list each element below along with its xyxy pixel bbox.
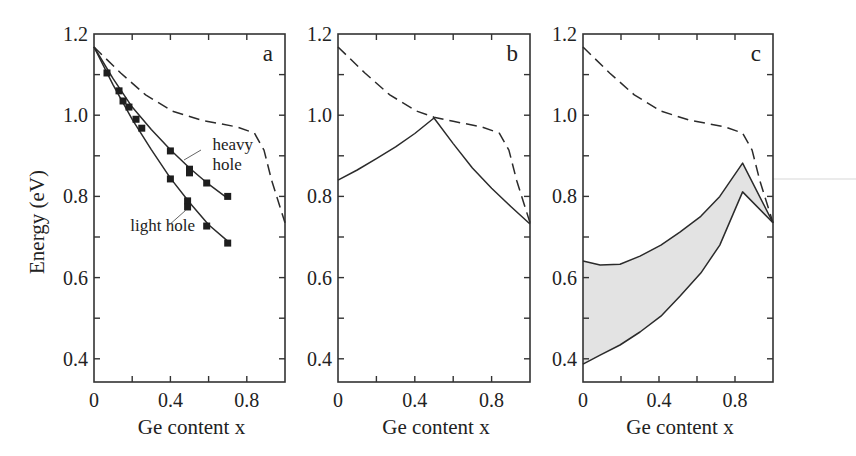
data-point-marker [120,97,127,104]
y-tick-label: 0.4 [63,348,88,370]
y-tick-label: 1.2 [63,23,88,45]
data-point-marker [224,193,231,200]
y-tick-label: 0.4 [307,348,332,370]
plot-frame [338,34,530,382]
data-point-marker [184,203,191,210]
annotation-label: light hole [130,216,195,235]
panel-letter: a [263,41,273,66]
solid-curve [338,118,530,224]
y-tick-label: 0.6 [552,267,577,289]
data-point-marker [167,175,174,182]
panel-a: 00.40.80.40.60.81.01.2Ge content xaheavy… [63,23,285,439]
data-point-marker [103,69,110,76]
annotation-label: hole [212,155,241,174]
data-point-marker [203,223,210,230]
data-point-marker [133,116,140,123]
data-point-marker [167,147,174,154]
data-point-marker [138,125,145,132]
x-tick-label: 0 [578,389,588,411]
x-tick-label: 0.8 [479,389,504,411]
data-point-marker [224,240,231,247]
y-tick-label: 0.4 [552,348,577,370]
y-tick-label: 0.6 [63,267,88,289]
y-tick-label: 1.0 [63,104,88,126]
solid-curve [94,47,228,198]
x-tick-label: 0.4 [402,389,427,411]
x-axis-title: Ge content x [626,415,734,439]
x-tick-label: 0 [89,389,99,411]
x-tick-label: 0.8 [723,389,748,411]
y-tick-label: 0.8 [307,185,332,207]
y-tick-label: 1.0 [552,104,577,126]
solid-curve [94,47,228,241]
y-axis-title: Energy (eV) [25,170,49,274]
x-tick-label: 0 [333,389,343,411]
x-axis-title: Ge content x [382,415,490,439]
data-point-marker [125,104,132,111]
dashed-curve [94,47,285,223]
y-tick-label: 1.2 [307,23,332,45]
annotation-label: heavy [212,135,253,154]
panel-b: 00.40.80.40.60.81.01.2Ge content xb [307,23,530,439]
data-point-marker [184,197,191,204]
y-tick-label: 1.2 [552,23,577,45]
heavy-hole-leader-line [184,150,201,160]
figure: Energy (eV) 00.40.80.40.60.81.01.2Ge con… [0,0,856,456]
x-tick-label: 0.4 [647,389,672,411]
x-tick-label: 0.4 [158,389,183,411]
panel-c: 00.40.80.40.60.81.01.2Ge content xc [552,23,773,439]
data-point-marker [116,87,123,94]
y-tick-label: 1.0 [307,104,332,126]
panel-letter: c [751,41,761,66]
dashed-curve [583,47,773,223]
data-point-marker [186,169,193,176]
panel-letter: b [507,41,519,66]
x-tick-label: 0.8 [234,389,259,411]
y-tick-label: 0.8 [63,185,88,207]
x-axis-title: Ge content x [138,415,246,439]
y-tick-label: 0.8 [552,185,577,207]
y-tick-label: 0.6 [307,267,332,289]
data-point-marker [203,180,210,187]
